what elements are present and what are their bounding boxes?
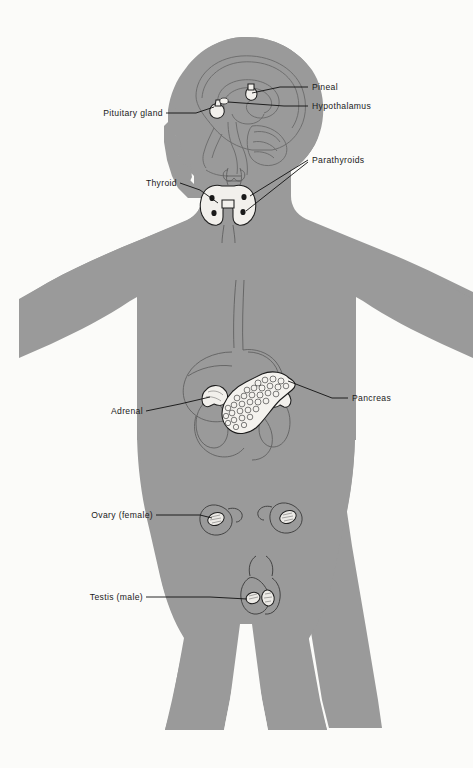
label-adrenal: Adrenal	[111, 406, 143, 416]
parathyroid-dot	[240, 209, 245, 215]
parathyroid-dot	[211, 210, 216, 216]
label-hypothalamus: Hypothalamus	[312, 101, 371, 111]
endocrine-diagram-page: Pituitary gland Pineal Hypothalamus Thyr…	[0, 0, 473, 768]
label-testis-male: Testis (male)	[90, 592, 143, 602]
label-pituitary-gland: Pituitary gland	[103, 108, 163, 118]
label-thyroid: Thyroid	[146, 178, 177, 188]
anatomy-figure: Pituitary gland Pineal Hypothalamus Thyr…	[0, 0, 473, 768]
hypothalamus-region	[220, 98, 228, 104]
label-parathyroids: Parathyroids	[312, 155, 364, 165]
label-pineal: Pineal	[312, 82, 338, 92]
label-ovary-female: Ovary (female)	[91, 510, 153, 520]
parathyroid-dot	[241, 194, 246, 200]
label-pancreas: Pancreas	[352, 393, 391, 403]
